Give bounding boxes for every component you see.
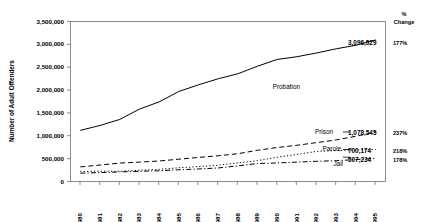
series-layer bbox=[80, 40, 375, 173]
x-axis-label-1989: 1989 bbox=[253, 212, 260, 222]
x-axis-label-1983: 1983 bbox=[135, 212, 142, 222]
percent-change-header-symbol: % bbox=[402, 11, 407, 17]
chart-canvas: 0 500,000 1,000,000 1,500,000 2,000,000 … bbox=[0, 0, 432, 222]
x-axis-label-1994: 1994 bbox=[352, 212, 359, 222]
value-jail: 507,234 bbox=[348, 156, 372, 164]
series-label-probation: Probation bbox=[273, 83, 301, 90]
series-label-prison: Prison bbox=[315, 128, 334, 135]
x-axis-labels: 1980 1981 1982 1983 1984 1985 1986 1987 … bbox=[76, 212, 378, 222]
x-axis-label-1986: 1986 bbox=[194, 212, 201, 222]
value-probation: 3,096,529 bbox=[348, 39, 377, 47]
x-axis-label-1981: 1981 bbox=[96, 212, 103, 222]
x-axis-label-1991: 1991 bbox=[293, 212, 300, 222]
y-axis-label-2: 1,000,000 bbox=[36, 132, 64, 139]
percent-change-column: % Change 177% 237% 218% 178% bbox=[393, 11, 414, 163]
y-axis-labels: 0 500,000 1,000,000 1,500,000 2,000,000 … bbox=[36, 18, 64, 185]
series-line-probation bbox=[80, 40, 375, 130]
value-column: 3,096,529 1,078,545 700,174 507,234 bbox=[348, 39, 377, 165]
x-axis-label-1988: 1988 bbox=[234, 212, 241, 222]
y-axis-label-3: 1,500,000 bbox=[36, 109, 64, 116]
x-axis-label-1993: 1993 bbox=[332, 212, 339, 222]
percent-change-prison: 237% bbox=[393, 130, 407, 136]
x-axis-label-1990: 1990 bbox=[273, 212, 280, 222]
percent-change-header-word: Change bbox=[394, 19, 415, 25]
x-axis-label-1984: 1984 bbox=[155, 212, 162, 222]
y-axis-label-5: 2,500,000 bbox=[36, 63, 64, 70]
line-chart: 0 500,000 1,000,000 1,500,000 2,000,000 … bbox=[0, 0, 432, 222]
series-label-parole: Parole bbox=[323, 145, 342, 152]
percent-change-probation: 177% bbox=[393, 40, 407, 46]
percent-change-jail: 178% bbox=[393, 157, 407, 163]
y-axis-label-0: 0 bbox=[61, 178, 65, 185]
plot-border bbox=[71, 22, 386, 182]
plot-frame bbox=[71, 22, 386, 182]
x-axis-label-1987: 1987 bbox=[214, 212, 221, 222]
x-axis-ticks bbox=[80, 182, 375, 186]
series-name-labels: Probation Prison Parole Jail bbox=[273, 83, 343, 167]
series-label-jail: Jail bbox=[333, 160, 343, 167]
y-axis-label-6: 3,000,000 bbox=[36, 40, 64, 47]
x-axis-label-1992: 1992 bbox=[312, 212, 319, 222]
y-axis-label-1: 500,000 bbox=[42, 155, 65, 162]
value-prison: 1,078,545 bbox=[348, 129, 377, 137]
x-axis-label-1985: 1985 bbox=[175, 212, 182, 222]
y-axis-label-4: 2,000,000 bbox=[36, 86, 64, 93]
y-axis-title: Number of Adult Offenders bbox=[8, 60, 15, 142]
value-parole: 700,174 bbox=[348, 147, 372, 155]
y-axis-label-7: 3,500,000 bbox=[36, 18, 64, 25]
percent-change-parole: 218% bbox=[393, 148, 407, 154]
x-axis-label-1980: 1980 bbox=[76, 212, 83, 222]
x-axis-label-1982: 1982 bbox=[116, 212, 123, 222]
y-axis-ticks bbox=[67, 22, 71, 182]
x-axis-label-1995: 1995 bbox=[371, 212, 378, 222]
